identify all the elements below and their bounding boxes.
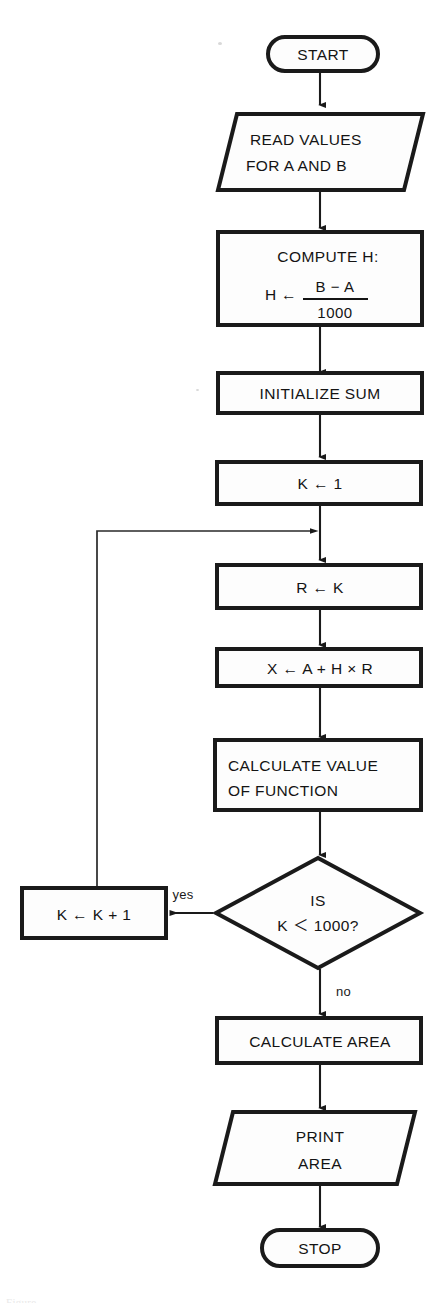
formula-numerator: B − A [316, 278, 355, 295]
node-read-values-label-line1: READ VALUES [250, 131, 362, 148]
edge-label-yes: yes [173, 887, 194, 902]
node-start[interactable]: START [268, 37, 378, 71]
node-k-increment[interactable]: K ← K + 1 [22, 888, 166, 938]
node-calculate-value-label-line1: CALCULATE VALUE [228, 757, 378, 774]
node-initialize-sum[interactable]: INITIALIZE SUM [218, 373, 422, 413]
node-k-increment-label: K ← K + 1 [57, 906, 132, 923]
formula-lhs: H [265, 286, 277, 303]
node-x-assign-label: X ← A + H × R [267, 660, 373, 677]
node-r-assign-label: R ← K [296, 579, 344, 596]
scan-speck-left [218, 42, 222, 45]
node-initialize-sum-label: INITIALIZE SUM [259, 385, 380, 402]
node-calculate-value[interactable]: CALCULATE VALUE OF FUNCTION [215, 740, 421, 810]
node-k-init[interactable]: K ← 1 [217, 462, 421, 504]
node-print-area[interactable]: PRINT AREA [215, 1112, 415, 1184]
node-stop-label: STOP [298, 1240, 342, 1257]
node-k-init-label: K ← 1 [297, 475, 342, 492]
node-print-area-label-line1: PRINT [296, 1128, 345, 1145]
formula-denominator: 1000 [317, 304, 352, 321]
node-r-assign[interactable]: R ← K [217, 565, 421, 608]
parallelogram-shape-print [215, 1112, 415, 1184]
node-decision-label-line1: IS [310, 892, 325, 909]
decision-shape [216, 858, 420, 968]
process-shape-calculate-value [215, 740, 421, 810]
node-x-assign[interactable]: X ← A + H × R [217, 649, 421, 686]
parallelogram-shape-read [218, 114, 423, 190]
scan-speck-mid [196, 389, 199, 391]
node-print-area-label-line2: AREA [298, 1155, 342, 1172]
edge-label-no: no [336, 984, 351, 999]
node-calculate-area[interactable]: CALCULATE AREA [217, 1018, 421, 1063]
node-compute-h[interactable]: COMPUTE H: H ← B − A 1000 [218, 232, 422, 325]
formula-arrow-icon: ← [281, 286, 297, 303]
node-calculate-area-label: CALCULATE AREA [249, 1033, 391, 1050]
flowchart-svg: START READ VALUES FOR A AND B COMPUTE H:… [0, 0, 444, 1303]
node-read-values-label-line2: FOR A AND B [246, 157, 347, 174]
node-decision-label-line2: K ＜ 1000? [277, 917, 359, 934]
node-decision-k-less-1000[interactable]: IS K ＜ 1000? [216, 858, 420, 968]
node-compute-h-label: COMPUTE H: [277, 248, 378, 265]
node-stop[interactable]: STOP [262, 1230, 378, 1266]
flowchart-canvas: START READ VALUES FOR A AND B COMPUTE H:… [0, 0, 444, 1303]
node-calculate-value-label-line2: OF FUNCTION [228, 782, 338, 799]
node-read-values[interactable]: READ VALUES FOR A AND B [218, 114, 423, 190]
figure-caption-partial: Figure [6, 1296, 37, 1303]
node-start-label: START [297, 46, 349, 63]
